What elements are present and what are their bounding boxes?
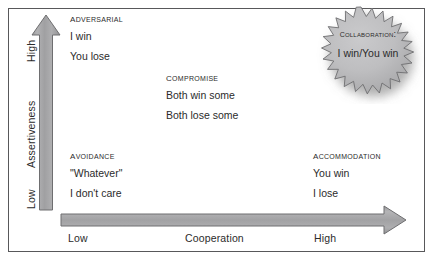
quadrant-compromise-line-1: Both win some xyxy=(166,90,238,101)
quadrant-avoidance-title: Avoidance xyxy=(70,150,122,161)
quadrant-adversarial: Adversarial I win You lose xyxy=(70,13,123,61)
quadrant-accommodation-line-2: I lose xyxy=(313,188,381,199)
quadrant-adversarial-line-2: You lose xyxy=(70,51,123,62)
collaboration-title: Collaboration: xyxy=(320,28,416,39)
quadrant-adversarial-line-1: I win xyxy=(70,31,123,42)
collaboration-callout-text: Collaboration: I win/You win xyxy=(320,28,416,59)
quadrant-compromise-line-2: Both lose some xyxy=(166,110,238,121)
cooperation-high-label: High xyxy=(314,232,336,244)
cooperation-low-label: Low xyxy=(68,232,88,244)
quadrant-compromise-title: Compromise xyxy=(166,72,238,83)
quadrant-avoidance: Avoidance "Whatever" I don't care xyxy=(70,150,122,198)
diagram-canvas: Collaboration: I win/You win Adversarial… xyxy=(0,0,442,265)
quadrant-accommodation: Accommodation You win I lose xyxy=(313,150,381,198)
quadrant-accommodation-line-1: You win xyxy=(313,168,381,179)
quadrant-compromise: Compromise Both win some Both lose some xyxy=(166,72,238,120)
assertiveness-axis-label: Assertiveness xyxy=(25,101,37,168)
cooperation-axis-label: Cooperation xyxy=(185,232,244,244)
collaboration-subtitle: I win/You win xyxy=(320,48,416,59)
assertiveness-low-label: Low xyxy=(25,189,37,209)
quadrant-avoidance-line-2: I don't care xyxy=(70,188,122,199)
quadrant-avoidance-line-1: "Whatever" xyxy=(70,168,122,179)
quadrant-adversarial-title: Adversarial xyxy=(70,13,123,24)
cooperation-axis-arrow xyxy=(60,205,407,235)
assertiveness-high-label: High xyxy=(25,40,37,62)
quadrant-accommodation-title: Accommodation xyxy=(313,150,381,161)
